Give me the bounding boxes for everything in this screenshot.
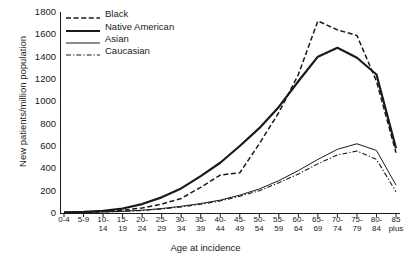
legend-item-0: Black: [66, 8, 174, 20]
legend-key-dashed: [66, 9, 100, 19]
series-line-3: [64, 151, 396, 213]
x-tick-17: 85 plus: [383, 215, 409, 233]
y-tick-1400: 1400: [35, 52, 56, 62]
y-tick-400: 400: [40, 163, 56, 173]
chart-figure: New patients/million population 02004006…: [0, 0, 411, 263]
legend-item-3: Caucasian: [66, 45, 174, 57]
legend-key-solid-thick: [66, 22, 100, 32]
legend-item-1: Native American: [66, 20, 174, 32]
legend-label-3: Caucasian: [105, 46, 150, 56]
legend-label-0: Black: [105, 9, 128, 19]
legend-label-1: Native American: [105, 22, 174, 32]
y-tick-1200: 1200: [35, 74, 56, 84]
y-tick-600: 600: [40, 141, 56, 151]
y-tick-200: 200: [40, 186, 56, 196]
legend-item-2: Asian: [66, 33, 174, 45]
legend-key-solid-thin: [66, 34, 100, 44]
x-axis-tick-labels: 0-45-910- 1415- 1920- 2425- 2930- 3435- …: [60, 215, 400, 245]
legend-key-dashdot: [66, 46, 100, 56]
series-line-1: [64, 48, 396, 213]
y-tick-1600: 1600: [35, 29, 56, 39]
y-tick-1800: 1800: [35, 7, 56, 17]
y-tick-800: 800: [40, 119, 56, 129]
x-axis-title: Age at incidence: [0, 242, 411, 253]
chart-legend: BlackNative AmericanAsianCaucasian: [66, 8, 174, 58]
legend-label-2: Asian: [105, 34, 129, 44]
y-tick-1000: 1000: [35, 96, 56, 106]
